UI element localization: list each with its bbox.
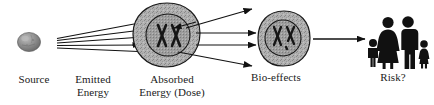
label-bio-effects: Bio-effects [236,71,316,84]
figure-boy [368,39,378,67]
label-absorbed-line1: Absorbed [122,73,222,86]
label-emitted-energy: Emitted Energy [62,73,124,99]
radiation-risk-diagram: Source Emitted Energy Absorbed Energy (D… [0,0,434,105]
label-absorbed-line2: Energy (Dose) [122,86,222,99]
label-source: Source [4,73,64,86]
label-emitted-line1: Emitted [62,73,124,86]
figure-girl [419,40,430,68]
label-absorbed-energy: Absorbed Energy (Dose) [122,73,222,99]
bio-effects-cell [258,11,310,66]
label-risk: Risk? [360,71,426,84]
family-group-pictogram [368,16,429,69]
label-emitted-line2: Energy [62,86,124,99]
figure-woman [376,17,399,69]
radiation-source-sphere [18,33,41,52]
figure-man [401,16,418,69]
absorbed-energy-cell [133,3,200,67]
emitted-beam-4 [57,45,140,46]
